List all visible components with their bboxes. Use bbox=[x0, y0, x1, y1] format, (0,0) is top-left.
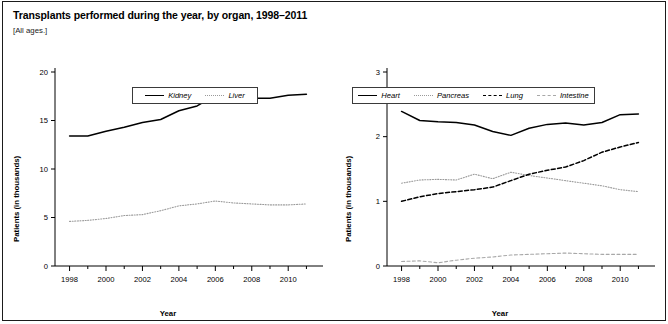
x-tick-label: 2004 bbox=[502, 275, 519, 284]
x-tick-label: 2008 bbox=[575, 275, 592, 284]
y-tick-label: 0 bbox=[376, 262, 380, 271]
x-axis-title-right: Year bbox=[335, 309, 665, 318]
x-axis-title-left: Year bbox=[3, 309, 333, 318]
legend-entry-intestine: Intestine bbox=[530, 91, 596, 100]
x-tick-label: 2006 bbox=[539, 275, 556, 284]
legend-label-heart: Heart bbox=[381, 91, 400, 100]
y-tick-label: 10 bbox=[40, 165, 48, 174]
series-line-liver bbox=[70, 201, 307, 221]
figure-title: Transplants performed during the year, b… bbox=[13, 9, 657, 21]
series-line-intestine bbox=[402, 253, 639, 263]
figure-subtitle: [All ages.] bbox=[13, 26, 657, 35]
legend-entry-pancreas: Pancreas bbox=[407, 91, 476, 100]
legend-line-lung-icon bbox=[483, 95, 502, 96]
legend-label-liver: Liver bbox=[228, 91, 244, 100]
legend-right: Heart Pancreas Lung Intestine bbox=[352, 87, 595, 104]
x-tick-label: 2002 bbox=[134, 275, 151, 284]
x-tick-label: 2002 bbox=[466, 275, 483, 284]
y-tick-label: 1 bbox=[376, 197, 380, 206]
x-tick-label: 2010 bbox=[612, 275, 629, 284]
x-tick-label: 2008 bbox=[243, 275, 260, 284]
legend-entry-kidney: Kidney bbox=[138, 91, 198, 100]
y-tick-label: 0 bbox=[44, 262, 48, 271]
x-tick-label: 2000 bbox=[430, 275, 447, 284]
x-tick-label: 1998 bbox=[61, 275, 78, 284]
legend-line-kidney-icon bbox=[145, 95, 164, 96]
legend-line-heart-icon bbox=[358, 95, 377, 96]
y-tick-label: 5 bbox=[44, 213, 48, 222]
chart-panel-right: Heart Pancreas Lung Intestine Patients (… bbox=[335, 46, 665, 322]
y-axis-title-right: Patients (in thousands) bbox=[344, 156, 353, 242]
figure-container: Transplants performed during the year, b… bbox=[2, 1, 666, 321]
y-tick-label: 3 bbox=[376, 68, 380, 77]
y-tick-label: 15 bbox=[40, 116, 48, 125]
series-line-heart bbox=[402, 111, 639, 135]
legend-line-pancreas-icon bbox=[414, 95, 433, 96]
series-line-lung bbox=[402, 142, 639, 201]
legend-entry-lung: Lung bbox=[476, 91, 530, 100]
legend-label-kidney: Kidney bbox=[168, 91, 191, 100]
legend-line-liver-icon bbox=[205, 95, 224, 96]
legend-line-intestine-icon bbox=[537, 95, 556, 96]
x-tick-label: 2000 bbox=[98, 275, 115, 284]
legend-left: Kidney Liver bbox=[132, 87, 258, 104]
y-tick-label: 2 bbox=[376, 132, 380, 141]
legend-label-intestine: Intestine bbox=[560, 91, 589, 100]
legend-entry-liver: Liver bbox=[198, 91, 251, 100]
x-tick-label: 2006 bbox=[207, 275, 224, 284]
chart-panel-left: Kidney Liver Patients (in thousands) 051… bbox=[3, 46, 333, 322]
series-line-pancreas bbox=[402, 172, 639, 191]
x-tick-label: 1998 bbox=[393, 275, 410, 284]
legend-label-pancreas: Pancreas bbox=[437, 91, 469, 100]
y-tick-label: 20 bbox=[40, 68, 48, 77]
y-axis-title-left: Patients (in thousands) bbox=[12, 156, 21, 242]
x-tick-label: 2004 bbox=[170, 275, 187, 284]
legend-label-lung: Lung bbox=[506, 91, 523, 100]
legend-entry-heart: Heart bbox=[351, 91, 407, 100]
figure-header: Transplants performed during the year, b… bbox=[13, 9, 657, 35]
x-tick-label: 2010 bbox=[280, 275, 297, 284]
